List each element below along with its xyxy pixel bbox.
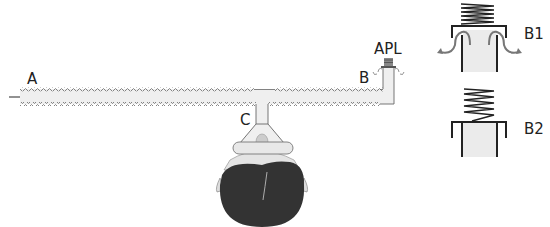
spring-icon — [461, 4, 494, 24]
label-b1: B1 — [524, 27, 544, 42]
label-a: A — [27, 72, 37, 87]
spring-icon — [464, 89, 494, 121]
breathing-circuit-diagram — [0, 0, 550, 227]
label-b2: B2 — [524, 122, 544, 137]
label-c: C — [240, 113, 250, 128]
breathing-tube — [20, 88, 388, 107]
apl-valve-closed-diagram — [452, 89, 506, 157]
label-b: B — [359, 71, 369, 86]
apl-valve-open-diagram — [437, 4, 522, 72]
label-apl: APL — [374, 42, 402, 57]
patient-head — [216, 134, 307, 227]
